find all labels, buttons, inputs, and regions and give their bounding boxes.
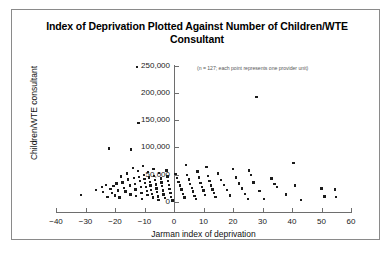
data-point	[238, 182, 240, 184]
data-point	[213, 192, 215, 194]
data-point	[141, 198, 143, 200]
data-point	[247, 198, 249, 200]
y-tick-label: 150,000	[118, 115, 170, 124]
data-point	[135, 195, 137, 197]
data-point	[152, 196, 154, 198]
data-point	[164, 197, 166, 199]
x-tick	[263, 208, 264, 213]
x-tick	[56, 208, 57, 213]
data-point	[320, 187, 322, 189]
data-point	[160, 181, 162, 183]
data-point	[248, 169, 250, 171]
data-point	[192, 190, 194, 192]
data-point	[148, 176, 150, 178]
data-point	[335, 196, 337, 198]
data-point	[205, 166, 207, 168]
y-axis-line	[174, 65, 175, 213]
x-tick	[86, 208, 87, 213]
data-point	[195, 198, 197, 200]
y-tick-label: 200,000	[118, 88, 170, 97]
y-tick-label: 0	[118, 197, 170, 206]
data-point	[146, 194, 148, 196]
data-point	[334, 188, 336, 190]
data-point	[226, 189, 228, 191]
data-point	[220, 179, 222, 181]
data-point	[207, 175, 209, 177]
data-point	[229, 194, 231, 196]
x-tick-label: −10	[130, 217, 160, 226]
data-point	[129, 184, 131, 186]
data-point	[149, 181, 151, 183]
data-point	[270, 177, 272, 179]
data-point	[211, 188, 213, 190]
data-point	[285, 193, 287, 195]
data-point	[176, 177, 178, 179]
x-tick	[204, 208, 205, 213]
data-point	[150, 189, 152, 191]
data-point	[123, 187, 125, 189]
x-tick	[145, 208, 146, 213]
data-point	[143, 178, 145, 180]
data-point	[202, 189, 204, 191]
data-point	[120, 175, 122, 177]
x-tick-label: 50	[307, 217, 337, 226]
data-point	[121, 181, 123, 183]
data-point	[201, 186, 203, 188]
data-point	[140, 186, 142, 188]
data-point	[158, 172, 160, 174]
data-point	[101, 186, 103, 188]
x-tick	[351, 208, 352, 213]
data-point	[117, 189, 119, 191]
x-tick-label: −30	[71, 217, 101, 226]
data-point	[143, 174, 145, 176]
data-point	[153, 175, 155, 177]
data-point	[160, 177, 162, 179]
data-point	[106, 196, 108, 198]
data-point	[182, 193, 184, 195]
data-point	[80, 194, 82, 196]
data-point	[292, 162, 294, 164]
figure-frame: Index of Deprivation Plotted Against Num…	[11, 9, 380, 240]
y-tick-label: 250,000	[118, 61, 170, 70]
data-point	[210, 184, 212, 186]
data-point	[193, 195, 195, 197]
y-tick-label: 100,000	[118, 142, 170, 151]
data-point	[114, 194, 116, 196]
data-point	[102, 191, 104, 193]
data-point	[147, 171, 149, 173]
data-point	[157, 199, 159, 201]
data-point	[149, 184, 151, 186]
x-axis-title: Jarman index of deprivation	[56, 229, 351, 239]
data-point	[241, 187, 243, 189]
data-point	[109, 188, 111, 190]
data-point	[166, 175, 168, 177]
data-point	[174, 173, 176, 175]
x-tick	[233, 208, 234, 213]
data-point	[217, 172, 219, 174]
data-point	[157, 195, 159, 197]
data-point	[162, 189, 164, 191]
data-point	[132, 167, 134, 169]
data-point	[124, 190, 126, 192]
data-point	[136, 66, 138, 68]
data-point	[323, 195, 325, 197]
x-tick	[322, 208, 323, 213]
data-point	[165, 169, 167, 171]
data-point	[139, 180, 141, 182]
data-point	[156, 191, 158, 193]
data-point	[142, 165, 144, 167]
data-point	[183, 196, 185, 198]
y-tick	[174, 147, 179, 148]
data-point	[126, 172, 128, 174]
data-point	[196, 170, 198, 172]
data-point	[198, 176, 200, 178]
data-point	[133, 177, 135, 179]
data-point	[223, 184, 225, 186]
x-tick-label: 0	[159, 217, 189, 226]
data-point	[258, 190, 260, 192]
data-point	[130, 148, 132, 150]
data-point	[179, 184, 181, 186]
data-point	[105, 184, 107, 186]
data-point	[138, 176, 140, 178]
data-point	[95, 189, 97, 191]
